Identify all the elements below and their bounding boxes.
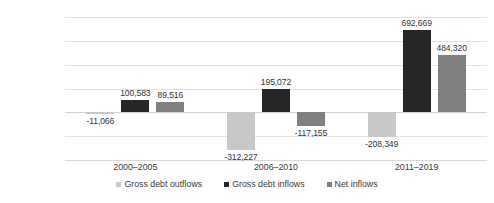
legend-item[interactable]: Net inflows	[327, 180, 378, 189]
bar-net[interactable]	[156, 102, 184, 113]
legend-label: Gross debt outflows	[124, 180, 202, 189]
bar-group: -11,066100,58389,516	[65, 17, 206, 160]
bar-outflows[interactable]	[368, 112, 396, 137]
legend-swatch-icon	[116, 182, 121, 187]
bar-outflows[interactable]	[86, 112, 114, 114]
bar-inflows[interactable]	[403, 30, 431, 113]
bar-inflows[interactable]	[262, 89, 290, 112]
bar-value-label: 484,320	[417, 44, 487, 53]
bar-value-label: -117,155	[276, 129, 346, 138]
x-axis-category-label: 2011–2019	[347, 163, 487, 172]
bar-value-label: 692,669	[382, 19, 452, 28]
bar-inflows[interactable]	[121, 100, 149, 112]
bar-group: -208,349692,669484,320	[346, 17, 487, 160]
bar-net[interactable]	[438, 55, 466, 113]
legend-item[interactable]: Gross debt inflows	[224, 180, 304, 189]
legend-item[interactable]: Gross debt outflows	[116, 180, 202, 189]
bar-value-label: -11,066	[65, 117, 135, 126]
x-axis-category-label: 2006–2010	[206, 163, 346, 172]
bar-net[interactable]	[297, 112, 325, 126]
legend-label: Net inflows	[335, 180, 378, 189]
bar-value-label: 195,072	[241, 78, 311, 87]
chart-legend: Gross debt outflowsGross debt inflowsNet…	[0, 180, 494, 189]
bar-value-label: 89,516	[135, 91, 205, 100]
bar-chart: 800,000600,000400,000200,0000-200,000-40…	[0, 0, 494, 203]
x-axis-category-label: 2000–2005	[65, 163, 205, 172]
legend-swatch-icon	[224, 182, 229, 187]
legend-swatch-icon	[327, 182, 332, 187]
bar-group: -312,227195,072-117,155	[206, 17, 347, 160]
plot-area: -11,066100,58389,516-312,227195,072-117,…	[65, 17, 487, 160]
bar-value-label: -208,349	[347, 140, 417, 149]
gridline	[65, 160, 487, 161]
bar-outflows[interactable]	[227, 112, 255, 149]
legend-label: Gross debt inflows	[232, 180, 304, 189]
bar-value-label: -312,227	[206, 153, 276, 162]
